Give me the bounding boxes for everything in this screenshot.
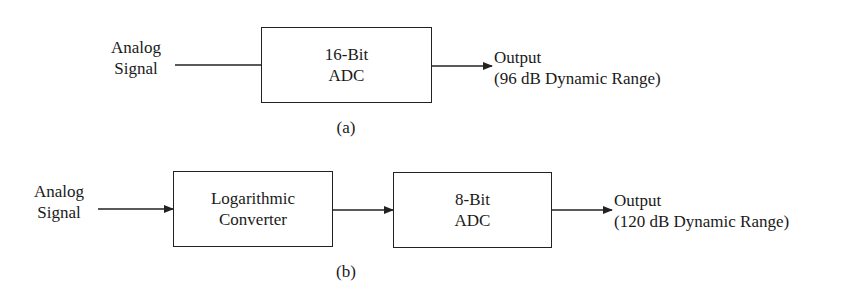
a-input-label: Analog Signal [100,37,172,79]
a-output-line1: Output [494,47,661,68]
a-input-line2: Signal [100,58,172,79]
b-block1-line1: Logarithmic [211,188,295,209]
b-output-line1: Output [614,190,789,211]
b-output-line2: (120 dB Dynamic Range) [614,211,789,232]
a-caption: (a) [326,117,366,138]
b-caption: (b) [326,261,366,282]
a-output-label: Output (96 dB Dynamic Range) [494,47,661,89]
b-input-line1: Analog [24,181,94,202]
b-log-converter-block: Logarithmic Converter [173,171,333,247]
b-block1-line2: Converter [219,209,287,230]
b-block2-line2: ADC [455,210,491,231]
b-output-label: Output (120 dB Dynamic Range) [614,190,789,232]
a-input-line1: Analog [100,37,172,58]
a-16bit-adc-block: 16-Bit ADC [261,27,432,103]
b-block2-line1: 8-Bit [455,189,490,210]
a-block-line2: ADC [329,65,365,86]
b-8bit-adc-block: 8-Bit ADC [393,172,552,248]
diagram-canvas: Analog Signal 16-Bit ADC Output (96 dB D… [0,0,859,296]
a-output-line2: (96 dB Dynamic Range) [494,68,661,89]
b-input-line2: Signal [24,202,94,223]
a-block-line1: 16-Bit [325,44,368,65]
b-input-label: Analog Signal [24,181,94,223]
